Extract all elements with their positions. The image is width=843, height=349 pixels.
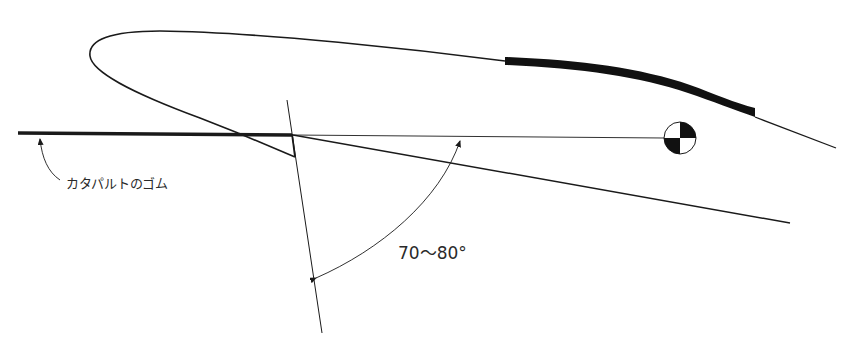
catapult-rubber-label: カタパルトのゴム (66, 173, 168, 192)
catapult-rubber-line (18, 133, 292, 135)
rubber-leader-arrow (40, 139, 60, 180)
wing-thick-band (505, 57, 755, 117)
fuselage-tail-line (755, 117, 836, 148)
center-of-gravity-symbol (664, 122, 696, 154)
fuselage-outline (90, 31, 505, 133)
reference-horizontal-line (292, 135, 664, 138)
fuselage-bottom-line (293, 135, 790, 223)
angle-label: 70〜80° (398, 239, 467, 264)
